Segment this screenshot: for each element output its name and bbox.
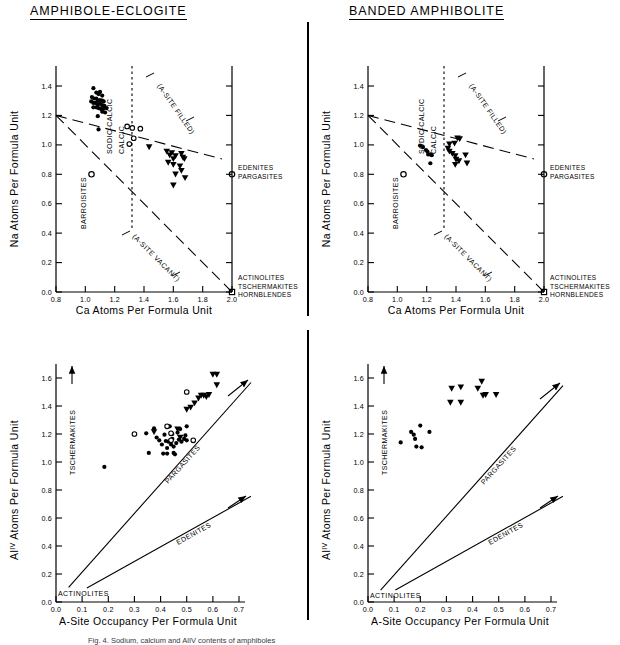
data-point-filled-circle xyxy=(105,106,109,110)
svg-text:1.0: 1.0 xyxy=(41,458,52,467)
label-actinolites: ACTINOLITES xyxy=(58,590,109,597)
data-point-filled-triangle xyxy=(464,161,471,167)
y-ticks xyxy=(368,378,374,602)
plot-na-ca-eclogite: 0.8 1.0 1.2 1.4 1.6 1.8 2.0 xyxy=(0,24,308,316)
data-point-open-circle xyxy=(127,142,132,147)
svg-text:0.8: 0.8 xyxy=(41,170,52,179)
label-actinolites: ACTINOLITES xyxy=(238,274,285,281)
data-point-filled-triangle xyxy=(213,382,220,388)
svg-text:0.0: 0.0 xyxy=(41,288,52,297)
label-actinolites: ACTINOLITES xyxy=(370,592,421,599)
data-point-filled-circle xyxy=(165,452,169,456)
panel-title-amphibole-eclogite: AMPHIBOLE-ECLOGITE xyxy=(30,4,187,20)
label-pargasites: PARGASITES xyxy=(238,173,283,180)
svg-text:1.4: 1.4 xyxy=(41,82,52,91)
pargasites-arrow xyxy=(228,380,248,396)
series-filled-triangle xyxy=(445,136,471,168)
ref-marker-barroisites xyxy=(401,172,406,177)
edenites-arrow xyxy=(540,496,558,508)
svg-text:0.4: 0.4 xyxy=(155,605,166,614)
series-filled-circle xyxy=(102,424,189,469)
data-point-filled-circle xyxy=(412,433,416,437)
data-point-open-circle xyxy=(138,126,143,131)
svg-text:0.7: 0.7 xyxy=(546,605,557,614)
data-point-open-circle xyxy=(165,424,170,429)
label-actinolites: ACTINOLITES xyxy=(550,274,597,281)
series-filled-circle xyxy=(399,424,432,450)
svg-text:1.6: 1.6 xyxy=(41,374,52,383)
ref-marker-barroisites xyxy=(89,172,94,177)
svg-text:1.4: 1.4 xyxy=(451,295,462,304)
data-point-filled-triangle xyxy=(475,386,482,392)
data-point-filled-circle xyxy=(172,451,176,455)
data-point-filled-circle xyxy=(413,437,417,441)
data-point-filled-circle xyxy=(165,446,169,450)
svg-text:0.4: 0.4 xyxy=(353,229,364,238)
figure-caption: Fig. 4. Sodium, calcium and AlIV content… xyxy=(88,636,275,645)
label-tschermakites: TSCHERMAKITES xyxy=(69,410,76,475)
x-axis-title: Ca Atoms Per Formula Unit xyxy=(76,304,213,316)
svg-text:1.8: 1.8 xyxy=(509,295,520,304)
data-point-filled-triangle xyxy=(448,386,455,392)
a-site-filled-boundary xyxy=(56,115,222,159)
svg-text:0.0: 0.0 xyxy=(51,605,62,614)
data-point-filled-circle xyxy=(430,153,434,157)
svg-text:0.4: 0.4 xyxy=(467,605,478,614)
label-a-site-filled: (A-SITE FILLED) xyxy=(155,83,196,136)
data-point-filled-triangle xyxy=(146,144,153,150)
y-tick-labels: 0.0 0.2 0.4 0.6 0.8 1.0 1.2 1.4 xyxy=(41,82,52,297)
data-point-open-circle xyxy=(191,438,196,443)
svg-text:0.4: 0.4 xyxy=(41,229,52,238)
series-filled-triangle xyxy=(447,379,499,406)
boundary-label-ticks xyxy=(434,73,506,276)
label-tschermakites: TSCHERMAKITES xyxy=(381,410,388,475)
data-point-filled-triangle xyxy=(170,162,177,168)
svg-text:1.0: 1.0 xyxy=(80,295,91,304)
x-tick-labels: 0.8 1.0 1.2 1.4 1.6 1.8 2.0 xyxy=(51,295,238,304)
data-point-filled-triangle xyxy=(182,175,189,181)
svg-text:0.2: 0.2 xyxy=(41,570,52,579)
label-pargasites: PARGASITES xyxy=(480,445,518,486)
y-tick-labels: 0.0 0.2 0.4 0.6 0.8 1.0 1.2 1.4 1.6 xyxy=(41,374,52,607)
data-point-filled-circle xyxy=(102,465,106,469)
data-point-filled-triangle xyxy=(151,429,158,435)
x-tick-labels: 0.8 1.0 1.2 1.4 1.6 1.8 2.0 xyxy=(363,295,550,304)
data-point-filled-circle xyxy=(102,99,106,103)
x-axis-title: A-Site Occupancy Per Formula Unit xyxy=(59,615,237,627)
data-point-filled-circle xyxy=(161,452,165,456)
data-point-filled-circle xyxy=(160,442,164,446)
x-axis-title: Ca Atoms Per Formula Unit xyxy=(388,304,525,316)
svg-text:0.0: 0.0 xyxy=(41,598,52,607)
data-point-filled-circle xyxy=(96,114,100,118)
data-point-open-circle xyxy=(130,126,135,131)
label-calcic: CALCIC xyxy=(118,126,125,154)
plot-al-asite-amphibolite: 0.0 0.1 0.2 0.3 0.4 0.5 0.6 0.7 xyxy=(312,330,620,630)
label-edenites: EDENITES xyxy=(550,164,586,171)
svg-text:1.2: 1.2 xyxy=(41,430,52,439)
label-pargasites: PARGASITES xyxy=(164,444,202,485)
data-point-open-circle xyxy=(169,431,174,436)
x-ticks xyxy=(56,286,232,292)
data-point-filled-triangle xyxy=(181,156,188,162)
svg-text:0.8: 0.8 xyxy=(41,486,52,495)
boundary-label-ticks xyxy=(122,73,194,276)
svg-text:1.2: 1.2 xyxy=(353,430,364,439)
svg-text:0.6: 0.6 xyxy=(208,605,219,614)
data-point-filled-circle xyxy=(183,433,187,437)
trend-line-pargasites xyxy=(69,383,251,588)
y-tick-labels: 0.0 0.2 0.4 0.6 0.8 1.0 1.2 1.4 1.6 xyxy=(353,374,364,607)
label-a-site-vacant: (A-SITE VACANT) xyxy=(131,233,182,284)
data-point-open-circle xyxy=(125,124,130,129)
svg-text:AlIV Atoms Per Formula Unit: AlIV Atoms Per Formula Unit xyxy=(320,420,332,560)
data-point-filled-circle xyxy=(98,90,102,94)
svg-text:0.8: 0.8 xyxy=(353,486,364,495)
data-point-filled-triangle xyxy=(447,400,454,406)
data-point-filled-circle xyxy=(172,445,176,449)
series-open-circle xyxy=(125,124,143,146)
data-point-filled-circle xyxy=(91,86,95,90)
data-point-filled-circle xyxy=(418,424,422,428)
label-a-site-vacant: (A-SITE VACANT) xyxy=(443,233,494,284)
svg-text:0.6: 0.6 xyxy=(41,514,52,523)
svg-text:1.4: 1.4 xyxy=(353,82,364,91)
data-point-open-circle xyxy=(184,390,189,395)
